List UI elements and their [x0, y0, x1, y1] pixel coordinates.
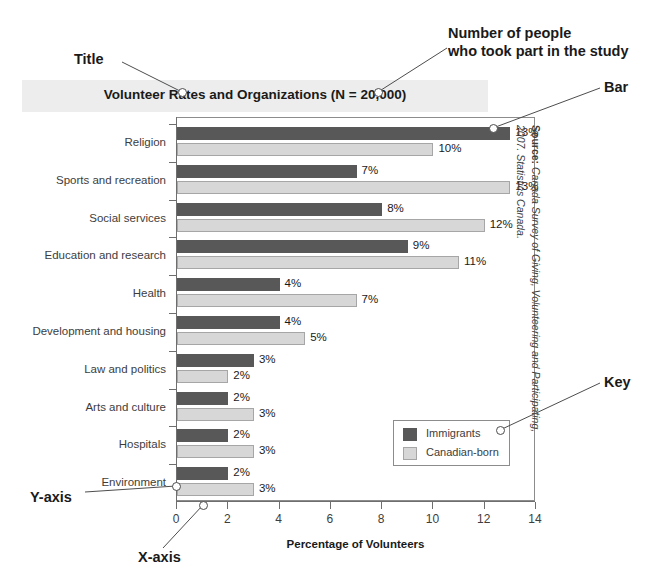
bar-canadian-born	[177, 219, 485, 232]
category-row: Hospitals2%3%	[0, 426, 671, 464]
category-label: Social services	[0, 212, 166, 224]
annotation-sample-size-line1: Number of people	[448, 24, 668, 42]
bar-canadian-born	[177, 332, 305, 345]
category-label: Sports and recreation	[0, 174, 166, 186]
category-label: Environment	[0, 476, 166, 488]
x-axis-tick-label: 2	[224, 512, 231, 526]
category-row: Health4%7%	[0, 275, 671, 313]
bar-value-label: 4%	[285, 277, 302, 289]
category-row: Development and housing4%5%	[0, 313, 671, 351]
y-axis-tick	[169, 313, 177, 314]
x-axis-tick-label: 6	[327, 512, 334, 526]
bar-immigrants	[177, 467, 228, 480]
x-axis-tick-label: 0	[173, 512, 180, 526]
category-label: Development and housing	[0, 325, 166, 337]
x-axis-tick	[535, 502, 536, 509]
bar-value-label: 3%	[259, 444, 276, 456]
annotation-y-axis: Y-axis	[30, 488, 72, 506]
bar-immigrants	[177, 429, 228, 442]
x-axis-tick	[381, 502, 382, 509]
x-axis-title: Percentage of Volunteers	[176, 538, 535, 550]
annotation-bar: Bar	[604, 78, 628, 96]
bar-canadian-born	[177, 256, 459, 269]
annotation-title: Title	[74, 50, 104, 68]
leader-dot-sample-size	[374, 88, 383, 97]
category-row: Law and politics3%2%	[0, 351, 671, 389]
category-row: Religion13%10%	[0, 124, 671, 162]
chart-figure: Volunteer Rates and Organizations (N = 2…	[0, 0, 671, 585]
bar-immigrants	[177, 354, 254, 367]
bar-canadian-born	[177, 408, 254, 421]
x-axis-tick-label: 10	[426, 512, 439, 526]
bar-immigrants	[177, 165, 357, 178]
x-axis-tick-label: 8	[378, 512, 385, 526]
bar-value-label: 3%	[259, 482, 276, 494]
annotation-sample-size: Number of people who took part in the st…	[448, 24, 668, 60]
source-note: Source: Canada Survey of Giving, Volunte…	[513, 125, 543, 455]
category-row: Environment2%3%	[0, 464, 671, 502]
chart-title: Volunteer Rates and Organizations (N = 2…	[22, 87, 488, 102]
source-text: Canada Survey of Giving, Volunteering an…	[515, 125, 542, 432]
bar-immigrants	[177, 240, 408, 253]
bar-canadian-born	[177, 445, 254, 458]
bar-value-label: 2%	[233, 391, 250, 403]
bar-immigrants	[177, 203, 382, 216]
bar-immigrants	[177, 127, 510, 140]
category-row: Sports and recreation7%13%	[0, 162, 671, 200]
annotation-key: Key	[604, 373, 631, 391]
chart-title-band: Volunteer Rates and Organizations (N = 2…	[22, 80, 488, 112]
bar-value-label: 10%	[438, 142, 461, 154]
bar-value-label: 5%	[310, 331, 327, 343]
legend-swatch-immigrants	[403, 428, 417, 441]
bar-canadian-born	[177, 483, 254, 496]
bar-canadian-born	[177, 143, 433, 156]
bar-canadian-born	[177, 370, 228, 383]
leader-dot-y-axis	[172, 482, 181, 491]
y-axis-tick	[169, 162, 177, 163]
category-label: Religion	[0, 136, 166, 148]
y-axis-tick	[169, 351, 177, 352]
bar-value-label: 3%	[259, 407, 276, 419]
annotation-sample-size-line2: who took part in the study	[448, 42, 668, 60]
x-axis-tick	[432, 502, 433, 509]
legend-label-canadian-born: Canadian-born	[426, 446, 499, 458]
x-axis-tick	[484, 502, 485, 509]
bar-immigrants	[177, 316, 280, 329]
chart-legend: Immigrants Canadian-born	[393, 420, 510, 466]
category-label: Law and politics	[0, 363, 166, 375]
legend-swatch-canadian-born	[403, 447, 417, 460]
y-axis-tick	[169, 200, 177, 201]
leader-dot-x-axis	[199, 501, 208, 510]
category-row: Arts and culture2%3%	[0, 389, 671, 427]
x-axis-tick-label: 12	[477, 512, 490, 526]
x-axis-tick-label: 4	[275, 512, 282, 526]
bar-value-label: 12%	[490, 218, 513, 230]
annotation-x-axis: X-axis	[138, 548, 181, 566]
x-axis-tick	[279, 502, 280, 509]
bar-value-label: 11%	[464, 255, 486, 267]
y-axis-tick	[169, 237, 177, 238]
x-axis-tick	[227, 502, 228, 509]
bar-value-label: 9%	[413, 239, 430, 251]
x-axis-tick-label: 14	[528, 512, 541, 526]
bar-value-label: 4%	[285, 315, 302, 327]
bar-value-label: 3%	[259, 353, 276, 365]
category-label: Hospitals	[0, 438, 166, 450]
leader-dot-bar	[489, 124, 498, 133]
category-label: Arts and culture	[0, 401, 166, 413]
category-row: Social services8%12%	[0, 200, 671, 238]
x-axis-tick	[330, 502, 331, 509]
bar-immigrants	[177, 392, 228, 405]
bar-value-label: 8%	[387, 202, 404, 214]
y-axis-tick	[169, 124, 177, 125]
y-axis-tick	[169, 464, 177, 465]
bar-value-label: 2%	[233, 466, 250, 478]
bar-canadian-born	[177, 181, 510, 194]
legend-label-immigrants: Immigrants	[426, 427, 480, 439]
bar-value-label: 2%	[233, 369, 250, 381]
category-label: Health	[0, 287, 166, 299]
category-label: Education and research	[0, 249, 166, 261]
bar-immigrants	[177, 278, 280, 291]
x-axis-tick	[176, 502, 177, 509]
leader-dot-title	[178, 88, 187, 97]
